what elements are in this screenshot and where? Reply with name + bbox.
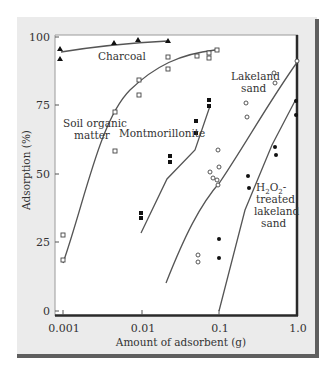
label-montmorillonite: Montmorillonite	[119, 127, 205, 139]
label-h2o2-line4: sand	[261, 217, 286, 229]
y-axis-title: Adsorption (%)	[20, 130, 32, 211]
label-charcoal: Charcoal	[98, 50, 147, 62]
x-tick-label: 1.0	[289, 322, 307, 335]
y-tick-label: 0	[43, 305, 50, 318]
y-tick-label: 100	[29, 31, 50, 44]
x-tick-label: 0.001	[48, 322, 80, 335]
label-soil-organic-line1: Soil organic	[63, 117, 127, 129]
x-axis-title: Amount of adsorbent (g)	[115, 336, 246, 348]
label-h2o2-line3: lakeland	[254, 205, 300, 217]
x-tick-label: 0.1	[211, 322, 229, 335]
y-tick-label: 50	[36, 168, 50, 181]
label-lakeland-line1: Lakeland	[231, 70, 280, 82]
adsorption-chart: 100 75 50 25 0 0.001 0.01 0.1 1.0 Amount…	[0, 0, 335, 373]
label-lakeland-line2: sand	[241, 82, 266, 94]
x-tick-label: 0.01	[131, 322, 156, 335]
y-tick-label: 75	[36, 99, 50, 112]
label-h2o2-line2: treated	[256, 193, 295, 205]
label-soil-organic-line2: matter	[74, 129, 111, 141]
y-tick-label: 25	[36, 236, 50, 249]
